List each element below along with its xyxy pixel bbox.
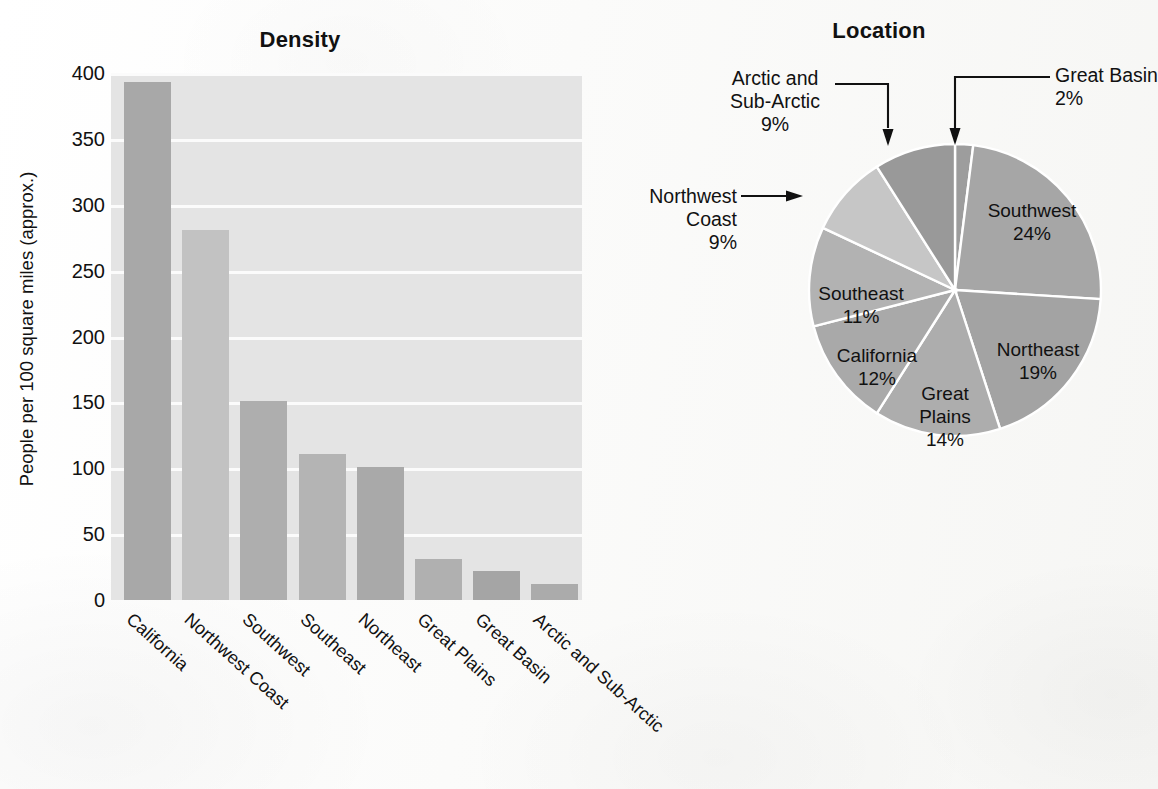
gridline xyxy=(111,205,582,208)
pie-callout-northwest-coast: NorthwestCoast9% xyxy=(649,185,737,253)
bar xyxy=(415,559,462,600)
pie-callout-arctic: Arctic andSub-Arctic9% xyxy=(730,67,820,135)
great-basin-leader-line xyxy=(955,77,1050,128)
bar xyxy=(240,401,287,600)
arctic-leader-line xyxy=(835,84,888,128)
bar-y-axis-label: People per 100 square miles (approx.) xyxy=(16,94,38,564)
y-axis-tick-label: 400 xyxy=(0,62,105,85)
pie-callout-great-basin: Great Basin2% xyxy=(1055,64,1158,109)
great-basin-arrowhead xyxy=(950,128,961,145)
bar-chart-title: Density xyxy=(0,27,600,53)
northwest-coast-arrowhead xyxy=(786,191,803,202)
bar xyxy=(531,584,578,600)
bar xyxy=(124,82,171,600)
pie-svg: Southwest24%Northeast19%GreatPlains14%Ca… xyxy=(600,0,1158,600)
x-axis-tick-label: California xyxy=(121,609,192,675)
density-bar-chart: Density 050100150200250300350400 People … xyxy=(0,0,600,789)
bar xyxy=(473,571,520,600)
bar xyxy=(299,454,346,600)
arctic-arrowhead xyxy=(883,129,894,146)
bar xyxy=(357,467,404,600)
bar-plot-area xyxy=(111,73,582,600)
bar xyxy=(182,230,229,600)
bar-x-axis-labels: CaliforniaNorthwest CoastSouthwestSouthe… xyxy=(0,600,600,789)
gridline xyxy=(111,73,582,76)
pie-label-great-plains: GreatPlains14% xyxy=(919,383,971,450)
location-pie-chart: Location Southwest24%Northeast19%GreatPl… xyxy=(600,0,1158,789)
x-axis-tick-label: Northwest Coast xyxy=(180,609,293,714)
gridline xyxy=(111,139,582,142)
